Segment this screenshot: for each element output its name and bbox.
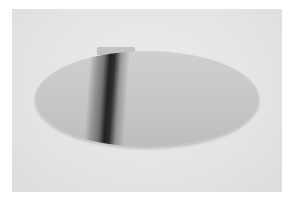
dark-band: [83, 51, 130, 147]
photograph: [12, 9, 282, 192]
oval-strip: [35, 51, 259, 147]
